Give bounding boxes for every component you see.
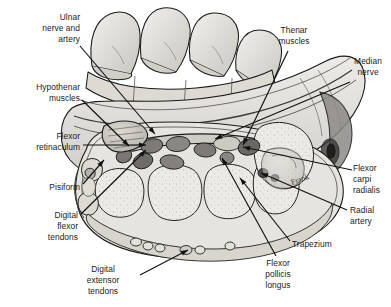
- label-median-nerve: Median nerve: [346, 56, 390, 78]
- label-digital-extensor-tendons: Digital extensor tendons: [70, 264, 136, 298]
- label-ulnar-nerve-and-artery: Ulnar nerve and artery: [18, 12, 80, 46]
- anatomy-figure-page: Frank Ulnar nerve and arteryHypothenar m…: [0, 0, 391, 307]
- label-flexor-carpi-radialis: Flexor carpi radialis: [353, 163, 391, 197]
- label-thenar-muscles: Thenar muscles: [263, 25, 325, 47]
- label-flexor-pollicis-longus: Flexor pollicis longus: [248, 258, 308, 292]
- label-pisiform: Pisiform: [10, 182, 80, 193]
- label-digital-flexor-tendons: Digital flexor tendons: [12, 210, 78, 244]
- label-flexor-retinaculum: Flexor retinaculum: [8, 131, 80, 153]
- label-hypothenar-muscles: Hypothenar muscles: [10, 82, 80, 104]
- label-radial-artery: Radial artery: [350, 205, 390, 227]
- carpal-tunnel-illustration: Frank: [0, 0, 391, 307]
- label-trapezium: Trapezium: [292, 239, 348, 250]
